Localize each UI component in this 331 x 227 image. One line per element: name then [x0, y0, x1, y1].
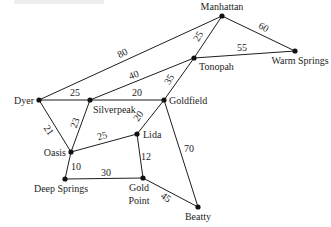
node-silverpeak — [87, 97, 92, 102]
node-oasis — [68, 149, 73, 154]
edge-weight-label: 35 — [162, 72, 177, 86]
node-dyer — [36, 97, 41, 102]
node-label-beatty: Beatty — [185, 211, 211, 222]
node-label-silverpeak: Silverpeak — [93, 104, 136, 115]
node-lida — [134, 131, 139, 136]
node-label-lida: Lida — [143, 129, 162, 140]
edge-weight-label: 25 — [96, 129, 109, 142]
node-label-goldfield: Goldfield — [169, 95, 207, 106]
node-label-layer: ManhattanTonopahWarm SpringsDyerSilverpe… — [14, 1, 329, 222]
node-manhattan — [219, 13, 224, 18]
node-label-warm-springs: Warm Springs — [271, 55, 328, 66]
node-goldfield — [161, 97, 166, 102]
weighted-graph-diagram: 8040252025605535212325207012103045 Manha… — [0, 0, 331, 227]
node-warm-springs — [292, 48, 297, 53]
edge-weight-label: 60 — [257, 20, 271, 35]
edge-dyer-oasis — [39, 100, 71, 152]
edge-weight-label: 40 — [127, 68, 140, 82]
edge-weight-label: 25 — [70, 87, 80, 98]
edge-manhattan-warm-springs — [222, 16, 295, 51]
node-label-dyer: Dyer — [14, 95, 35, 106]
node-label-gold-point: Gold — [129, 182, 149, 193]
edge-weight-label: 45 — [159, 190, 174, 205]
edge-weight-label: 80 — [115, 46, 129, 60]
weight-label-layer: 8040252025605535212325207012103045 — [41, 20, 270, 205]
node-tonopah — [191, 55, 196, 60]
edge-weight-label: 10 — [71, 161, 81, 172]
node-label-tonopah: Tonopah — [199, 61, 234, 72]
node-label-manhattan: Manhattan — [201, 1, 244, 12]
edge-weight-label: 70 — [184, 143, 194, 154]
edge-weight-label: 12 — [141, 151, 151, 162]
node-label-deep-springs: Deep Springs — [34, 183, 88, 194]
node-label-oasis: Oasis — [44, 147, 66, 158]
edge-layer — [39, 16, 295, 207]
node-deep-springs — [62, 176, 67, 181]
edge-deep-springs-gold-point — [65, 178, 143, 179]
edge-weight-label: 20 — [132, 87, 142, 98]
edge-weight-label: 55 — [237, 42, 247, 53]
node-beatty — [195, 204, 200, 209]
edge-weight-label: 30 — [101, 167, 111, 178]
node-layer — [36, 13, 297, 209]
node-gold-point — [140, 175, 145, 180]
edge-weight-label: 25 — [191, 29, 206, 43]
node-label-gold-point-line2: Point — [128, 195, 149, 206]
